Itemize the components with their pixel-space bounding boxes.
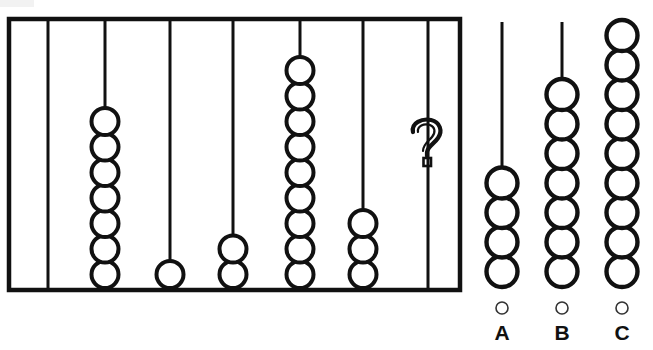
bead bbox=[607, 138, 638, 169]
bead bbox=[92, 210, 119, 237]
bead bbox=[287, 210, 314, 237]
bead bbox=[287, 134, 314, 161]
bead bbox=[607, 20, 638, 51]
bead bbox=[287, 108, 314, 135]
bead bbox=[487, 168, 518, 199]
option-c-radio[interactable] bbox=[616, 302, 628, 314]
bead bbox=[287, 261, 314, 288]
bead bbox=[220, 261, 247, 288]
rod-4-group bbox=[220, 21, 247, 288]
option-b-radio[interactable] bbox=[556, 302, 568, 314]
bead bbox=[607, 197, 638, 228]
option-a-letter: A bbox=[482, 322, 522, 344]
bead bbox=[92, 159, 119, 186]
bead bbox=[607, 168, 638, 199]
option-radio-group[interactable] bbox=[496, 302, 628, 314]
bead bbox=[92, 261, 119, 288]
option-a-radio[interactable] bbox=[496, 302, 508, 314]
bead bbox=[350, 261, 377, 288]
rod-3-group bbox=[157, 21, 184, 288]
abacus-illustration bbox=[0, 0, 653, 350]
bead bbox=[547, 109, 578, 140]
bead bbox=[287, 236, 314, 263]
abacus-rods bbox=[48, 21, 428, 288]
bead bbox=[92, 108, 119, 135]
option-c-rod-group bbox=[607, 20, 638, 287]
option-b-letter: B bbox=[542, 322, 582, 344]
option-b-rod-group bbox=[547, 22, 578, 287]
option-a-rod-group bbox=[487, 22, 518, 287]
bead bbox=[287, 83, 314, 110]
bead bbox=[547, 138, 578, 169]
bead bbox=[287, 159, 314, 186]
bead bbox=[92, 236, 119, 263]
bead bbox=[607, 79, 638, 110]
option-c-letter: C bbox=[602, 322, 642, 344]
bead bbox=[547, 256, 578, 287]
bead bbox=[92, 134, 119, 161]
bead bbox=[487, 197, 518, 228]
bead bbox=[607, 50, 638, 81]
bead bbox=[350, 236, 377, 263]
bead bbox=[547, 227, 578, 258]
bead bbox=[287, 185, 314, 212]
bead bbox=[350, 210, 377, 237]
bead bbox=[607, 109, 638, 140]
bead bbox=[607, 227, 638, 258]
bead bbox=[220, 236, 247, 263]
bead bbox=[487, 256, 518, 287]
rod-5-group bbox=[287, 21, 314, 288]
bead bbox=[487, 227, 518, 258]
puzzle-canvas: A B C bbox=[0, 0, 653, 350]
option-rods bbox=[487, 20, 638, 287]
bead bbox=[547, 168, 578, 199]
bead bbox=[287, 57, 314, 84]
bead bbox=[157, 261, 184, 288]
rod-6-group bbox=[350, 21, 377, 288]
bead bbox=[547, 197, 578, 228]
rod-2-group bbox=[92, 21, 119, 288]
bead bbox=[607, 256, 638, 287]
bead bbox=[547, 79, 578, 110]
bead bbox=[92, 185, 119, 212]
